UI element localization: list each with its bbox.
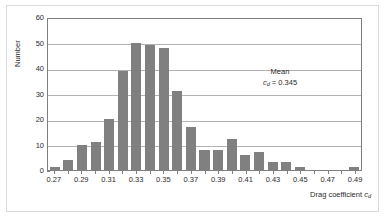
x-axis-tick-label: 0.43 — [266, 175, 281, 184]
histogram-bar — [227, 139, 237, 170]
histogram-bar — [104, 119, 114, 170]
histogram-bar — [145, 45, 155, 170]
x-axis-tick-mark — [150, 171, 151, 174]
bar-slot — [239, 19, 253, 170]
x-axis-tick-mark — [287, 171, 288, 174]
bar-slot — [334, 19, 348, 170]
bar-slot — [102, 19, 116, 170]
bar-slot — [62, 19, 76, 170]
histogram-bars — [48, 19, 361, 170]
bar-slot — [170, 19, 184, 170]
bar-slot — [293, 19, 307, 170]
y-axis-tick-label: 10 — [36, 142, 47, 150]
x-axis-tick-labels: 0.270.290.310.330.350.370.390.410.430.45… — [47, 175, 362, 187]
histogram-bar — [240, 155, 250, 170]
x-axis-tick-mark — [95, 171, 96, 174]
y-axis-tick-label: 50 — [36, 40, 47, 48]
x-axis-title-text: Drag coefficient — [310, 190, 362, 199]
y-axis-tick-label: 20 — [36, 116, 47, 124]
histogram-bar — [186, 127, 196, 170]
mean-annotation-value: cd = 0.345 — [232, 77, 328, 89]
x-axis-tick-label: 0.27 — [47, 175, 62, 184]
histogram-bar — [172, 91, 182, 170]
bar-slot — [225, 19, 239, 170]
x-axis-tick-mark — [259, 171, 260, 174]
x-axis-tick-label: 0.35 — [156, 175, 171, 184]
y-axis-tick-label: 60 — [36, 14, 47, 22]
bar-slot — [320, 19, 334, 170]
x-axis-title-subscript: d — [368, 193, 371, 199]
x-axis-tick-mark — [68, 171, 69, 174]
x-axis-tick-mark — [205, 171, 206, 174]
bar-slot — [252, 19, 266, 170]
bar-slot — [116, 19, 130, 170]
y-axis-tick-label: 30 — [36, 91, 47, 99]
x-axis-tick-label: 0.29 — [74, 175, 89, 184]
x-axis-tick-label: 0.31 — [101, 175, 116, 184]
x-axis-tick-mark — [355, 171, 356, 174]
x-axis-tick-label: 0.41 — [238, 175, 253, 184]
x-axis-tick-mark — [341, 171, 342, 174]
bar-slot — [130, 19, 144, 170]
histogram-bar — [281, 162, 291, 170]
x-axis-tick-mark — [109, 171, 110, 174]
x-axis-title: Drag coefficient cd — [310, 190, 371, 199]
x-axis-tick-mark — [177, 171, 178, 174]
x-axis-tick-mark — [328, 171, 329, 174]
mean-number: 0.345 — [278, 78, 297, 87]
bar-slot — [307, 19, 321, 170]
histogram-bar — [349, 167, 359, 170]
bar-slot — [347, 19, 361, 170]
x-axis-tick-mark — [136, 171, 137, 174]
histogram-figure: Number 0102030405060 0.270.290.310.330.3… — [0, 0, 385, 217]
x-axis-tick-mark — [218, 171, 219, 174]
bar-slot — [198, 19, 212, 170]
plot-area — [47, 18, 362, 171]
x-axis-tick-label: 0.37 — [183, 175, 198, 184]
mean-annotation-label: Mean — [232, 66, 328, 77]
histogram-bar — [50, 167, 60, 170]
bar-slot — [75, 19, 89, 170]
bar-slot — [89, 19, 103, 170]
bar-slot — [143, 19, 157, 170]
mean-annotation: Mean cd = 0.345 — [232, 66, 328, 89]
histogram-bar — [213, 150, 223, 170]
x-axis-tick-mark — [54, 171, 55, 174]
x-axis-tick-mark — [300, 171, 301, 174]
y-axis-title: Number — [13, 40, 22, 67]
histogram-bar — [159, 48, 169, 170]
x-axis-tick-mark — [232, 171, 233, 174]
bar-slot — [211, 19, 225, 170]
bar-slot — [48, 19, 62, 170]
bar-slot — [279, 19, 293, 170]
x-axis-tick-label: 0.45 — [293, 175, 308, 184]
y-axis-tick-label: 0 — [40, 167, 47, 175]
x-axis-tick-label: 0.39 — [211, 175, 226, 184]
x-axis-tick-label: 0.49 — [348, 175, 363, 184]
x-axis-tick-mark — [246, 171, 247, 174]
x-axis-tick-label: 0.47 — [320, 175, 335, 184]
x-axis-tick-mark — [191, 171, 192, 174]
histogram-bar — [77, 145, 87, 171]
y-axis-tick-label: 40 — [36, 65, 47, 73]
histogram-bar — [131, 43, 141, 171]
histogram-bar — [118, 71, 128, 170]
x-axis-tick-mark — [273, 171, 274, 174]
histogram-bar — [63, 160, 73, 170]
bar-slot — [184, 19, 198, 170]
x-axis-tick-mark — [163, 171, 164, 174]
x-axis-tick-mark — [81, 171, 82, 174]
histogram-bar — [295, 167, 305, 170]
histogram-bar — [199, 150, 209, 170]
x-axis-tick-mark — [314, 171, 315, 174]
histogram-bar — [254, 152, 264, 170]
x-axis-tick-label: 0.33 — [129, 175, 144, 184]
bar-slot — [157, 19, 171, 170]
histogram-bar — [268, 162, 278, 170]
x-axis-tick-mark — [122, 171, 123, 174]
bar-slot — [266, 19, 280, 170]
histogram-bar — [91, 142, 101, 170]
